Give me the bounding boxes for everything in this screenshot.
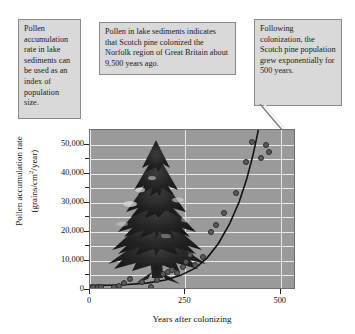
data-point bbox=[266, 149, 272, 155]
y-axis-tick-mark bbox=[84, 231, 89, 232]
callout-middle-colonization-date: Pollen in lake sediments indicates that … bbox=[99, 22, 236, 75]
data-point bbox=[233, 190, 239, 196]
vertical-gridline bbox=[281, 130, 282, 288]
callout-right-exponential-growth: Following colonization, the Scotch pine … bbox=[254, 19, 342, 106]
y-axis-tick-label: 50,000 bbox=[61, 139, 84, 148]
y-axis-minor-tick-mark bbox=[85, 216, 89, 217]
y-axis-minor-tick-mark bbox=[85, 158, 89, 159]
y-axis-tick-mark bbox=[84, 260, 89, 261]
x-axis-tick-mark bbox=[89, 289, 90, 294]
y-axis-tick-label: 30,000 bbox=[61, 197, 84, 206]
data-point bbox=[263, 142, 269, 148]
data-point bbox=[200, 254, 206, 260]
y-axis-tick-mark bbox=[84, 202, 89, 203]
y-axis-tick-label: 40,000 bbox=[61, 168, 84, 177]
x-axis-tick-label: 250 bbox=[178, 296, 191, 305]
x-axis-tick-label: 0 bbox=[87, 296, 91, 305]
y-axis-minor-tick-mark bbox=[85, 274, 89, 275]
data-point bbox=[187, 252, 193, 258]
y-axis-tick-mark bbox=[84, 173, 89, 174]
scotch-pine-tree-image bbox=[92, 138, 222, 288]
callout-left-population-index: Pollen accumulation rate in lake sedimen… bbox=[18, 19, 81, 119]
y-axis-tick-label: 10,000 bbox=[61, 255, 84, 264]
x-axis-tick-mark bbox=[184, 289, 185, 294]
y-axis-tick-mark bbox=[84, 144, 89, 145]
x-axis-title: Years after colonizing bbox=[89, 314, 295, 324]
data-point bbox=[213, 222, 219, 228]
x-axis-tick-mark bbox=[280, 289, 281, 294]
data-point bbox=[243, 159, 249, 165]
y-axis-minor-tick-mark bbox=[85, 245, 89, 246]
y-axis-tick-label: 20,000 bbox=[61, 226, 84, 235]
data-point bbox=[221, 210, 227, 216]
data-point bbox=[98, 284, 104, 289]
data-point bbox=[258, 155, 264, 161]
chart-figure: Pollen accumulation rate (grains/cm2/yea… bbox=[0, 118, 355, 334]
plot-area bbox=[89, 129, 295, 289]
data-point bbox=[148, 284, 154, 289]
data-point bbox=[139, 279, 145, 285]
y-axis-tick-labels: 010,00020,00030,00040,00050,000 bbox=[0, 129, 84, 289]
vertical-gridline bbox=[90, 130, 91, 288]
x-axis-tick-label: 500 bbox=[273, 296, 286, 305]
data-point bbox=[249, 139, 255, 145]
y-axis-minor-tick-mark bbox=[85, 187, 89, 188]
data-point bbox=[154, 277, 160, 283]
data-point bbox=[127, 276, 133, 282]
